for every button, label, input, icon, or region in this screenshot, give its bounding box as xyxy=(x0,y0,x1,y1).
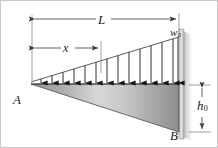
label-w-subscript: 0 xyxy=(178,31,181,38)
dimension-L xyxy=(32,13,179,81)
load-intensity-line xyxy=(31,37,179,82)
label-load-intensity-w0: w0 xyxy=(170,27,181,39)
tapered-beam-body xyxy=(31,84,179,132)
label-distance-x: x xyxy=(63,42,68,54)
label-depth-h0: h0 xyxy=(197,99,208,114)
label-h-base: h xyxy=(197,98,204,113)
diagram-canvas xyxy=(1,1,218,148)
support-wall xyxy=(179,29,184,139)
beam-load-diagram: L x w0 A h0 B xyxy=(0,0,218,148)
label-support-B: B xyxy=(170,129,178,142)
label-support-A: A xyxy=(13,93,21,106)
wall-shadow xyxy=(183,31,192,141)
label-h-subscript: 0 xyxy=(204,104,208,113)
distributed-load-arrows xyxy=(41,38,178,84)
label-span-L: L xyxy=(98,13,105,26)
label-w-base: w xyxy=(170,26,177,38)
